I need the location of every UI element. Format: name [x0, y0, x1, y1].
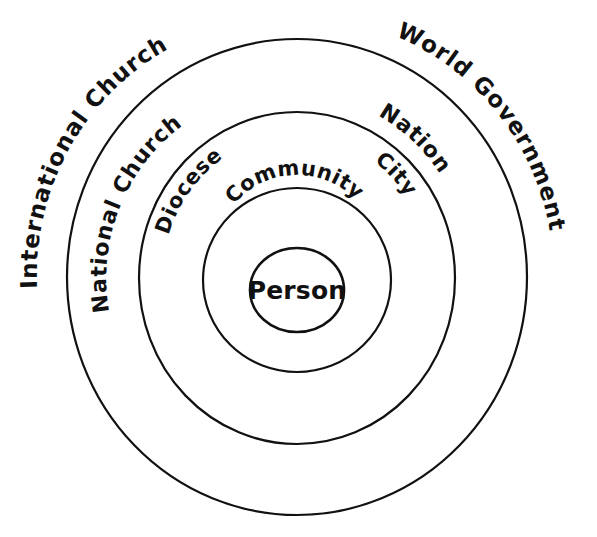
label-city: City — [371, 147, 422, 200]
diagram-canvas: International Church World Government Na… — [0, 0, 597, 537]
label-community: Community — [220, 155, 369, 208]
concentric-circles-diagram: International Church World Government Na… — [0, 0, 597, 537]
label-person: Person — [248, 276, 347, 305]
